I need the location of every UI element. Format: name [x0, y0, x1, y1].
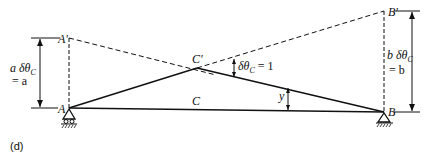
label-c: C — [192, 95, 200, 107]
rotation-label: δθC = 1 — [238, 60, 274, 77]
dimension-value-a: = a — [12, 75, 27, 87]
displaced-member-cb — [197, 68, 384, 112]
label-c-prime: C' — [192, 53, 203, 65]
label-a: A — [58, 103, 65, 115]
deflection-label: y — [279, 90, 284, 102]
panel-label: (d) — [10, 140, 23, 152]
dashed-line-b-prime — [197, 11, 384, 68]
beam-baseline — [69, 108, 384, 112]
label-b: B — [388, 106, 395, 118]
label-b-prime: B' — [388, 6, 398, 18]
label-a-prime: A' — [58, 33, 68, 45]
beam-diagram — [0, 0, 432, 154]
displaced-member-ac — [69, 68, 197, 108]
dimension-value-b: = b — [389, 64, 405, 76]
